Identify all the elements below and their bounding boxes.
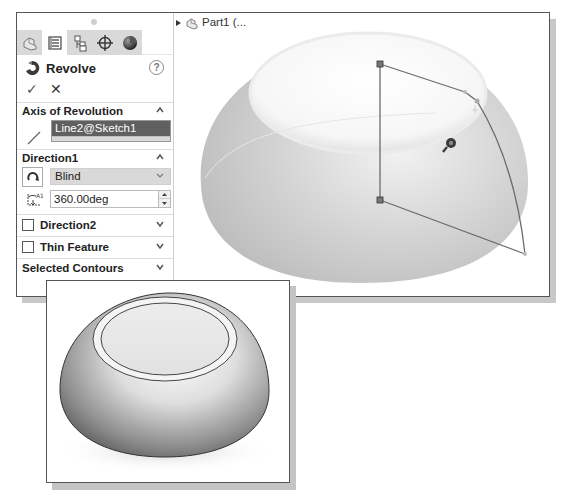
- part-icon: [21, 34, 39, 52]
- arrow-up-icon: [162, 193, 167, 196]
- list-icon: [46, 34, 64, 52]
- tab-property-manager[interactable]: [42, 30, 67, 55]
- selected-axis-item[interactable]: Line2@Sketch1: [52, 121, 170, 136]
- divider: [17, 236, 173, 237]
- confirm-actions: ✓ ✕: [17, 79, 173, 99]
- section-direction1[interactable]: Direction1: [17, 149, 173, 167]
- section-label: Axis of Revolution: [22, 105, 123, 117]
- section-direction2[interactable]: Direction2: [17, 216, 173, 234]
- section-label: Direction1: [22, 152, 78, 164]
- part-icon: [185, 16, 199, 30]
- section-axis-of-revolution[interactable]: Axis of Revolution: [17, 102, 173, 120]
- chevron-down-icon[interactable]: [155, 262, 165, 272]
- direction2-checkbox[interactable]: [22, 219, 34, 231]
- tab-configuration-manager[interactable]: [67, 30, 92, 55]
- tab-feature-manager[interactable]: [17, 30, 42, 55]
- chevron-up-icon[interactable]: [155, 105, 165, 115]
- axis-line-icon: [26, 130, 42, 146]
- sketch-point[interactable]: [523, 252, 527, 256]
- tree-expand-arrow-icon[interactable]: [176, 20, 181, 26]
- chevron-down-icon[interactable]: [155, 241, 165, 251]
- appearance-sphere-icon: [121, 34, 139, 52]
- section-label: Selected Contours: [22, 262, 124, 274]
- divider: [17, 214, 173, 215]
- graphics-viewport[interactable]: [175, 13, 550, 296]
- spin-down-button[interactable]: [159, 199, 170, 207]
- arrow-down-icon: [162, 202, 167, 205]
- section-label: Thin Feature: [40, 241, 109, 253]
- crosshair-icon: [96, 34, 114, 52]
- chevron-up-icon[interactable]: [155, 152, 165, 162]
- panel-grip-handle[interactable]: [91, 19, 97, 25]
- angle-value: 360.00deg: [54, 193, 108, 205]
- section-thin-feature[interactable]: Thin Feature: [17, 238, 173, 256]
- chevron-down-icon[interactable]: [155, 219, 165, 229]
- configuration-icon: [71, 34, 89, 52]
- svg-text:A1: A1: [36, 192, 43, 199]
- section-selected-contours[interactable]: Selected Contours: [17, 259, 173, 277]
- spin-up-button[interactable]: [159, 191, 170, 199]
- solidworks-window: Revolve ? ✓ ✕ Axis of Revolution Line2@S…: [16, 12, 550, 297]
- manager-tabs: [17, 30, 173, 55]
- sketch-point[interactable]: [475, 99, 480, 104]
- angle-icon: A1: [25, 191, 43, 207]
- revolve-type-dropdown[interactable]: Blind: [50, 168, 171, 185]
- sketch-endpoint[interactable]: [377, 197, 383, 203]
- axis-selection-box[interactable]: Line2@Sketch1: [51, 120, 171, 142]
- section-label: Direction2: [40, 219, 96, 231]
- cancel-button[interactable]: ✕: [50, 81, 62, 97]
- angle-input[interactable]: 360.00deg: [50, 190, 171, 208]
- result-preview-inset: [46, 280, 290, 483]
- chevron-down-icon: [156, 173, 164, 179]
- reverse-direction-button[interactable]: [22, 167, 43, 187]
- reverse-direction-icon: [26, 170, 40, 184]
- thin-feature-checkbox[interactable]: [22, 241, 34, 253]
- tab-display-manager[interactable]: [117, 30, 142, 55]
- tab-dimxpert-manager[interactable]: [92, 30, 117, 55]
- help-button[interactable]: ?: [149, 60, 164, 75]
- angle-spinner[interactable]: [158, 191, 170, 207]
- sketch-endpoint[interactable]: [377, 61, 383, 67]
- property-manager-panel: Revolve ? ✓ ✕ Axis of Revolution Line2@S…: [17, 13, 174, 296]
- feature-tree-part-label[interactable]: Part1 (...: [202, 16, 246, 28]
- feature-title: Revolve: [46, 61, 96, 76]
- ok-button[interactable]: ✓: [26, 81, 40, 97]
- revolve-type-value: Blind: [55, 170, 81, 182]
- sketch-point[interactable]: [463, 90, 467, 94]
- revolve-icon: [24, 60, 40, 76]
- feature-title-row: Revolve ?: [17, 57, 173, 79]
- bowl-preview: [201, 33, 528, 283]
- revolved-bowl-render: [47, 281, 289, 482]
